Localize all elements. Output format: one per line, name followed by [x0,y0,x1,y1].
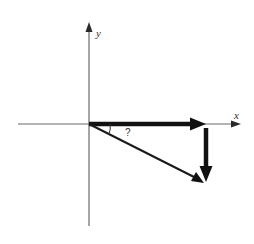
y-axis-arrowhead-icon [86,22,93,32]
resultant-shaft [89,124,196,178]
y-axis-label: y [95,27,101,39]
vertical-component-vector [200,128,213,182]
x-axis-arrowhead-icon [231,121,241,128]
horizontal-component-vector [89,118,206,131]
resultant-arrowhead-icon [191,172,204,183]
x-axis-label: x [233,109,239,121]
horizontal-component-arrowhead-icon [190,118,206,131]
angle-label: ? [125,127,131,138]
resultant-vector [89,124,204,183]
vector-diagram: x y ? [0,0,254,244]
